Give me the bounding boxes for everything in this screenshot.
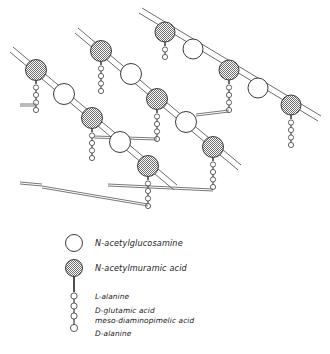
residue-nag bbox=[248, 78, 268, 98]
peptide-residue-icon bbox=[71, 303, 77, 309]
legend-item-peptide-chain: L-alanine D-glutamic acid meso-diaminopi… bbox=[70, 276, 194, 338]
residue-nam bbox=[147, 89, 168, 110]
legend-label-l-alanine: L-alanine bbox=[95, 292, 130, 301]
peptide-side-chain bbox=[226, 76, 231, 113]
residue-nam bbox=[219, 60, 239, 80]
legend-label-d-glutamic-acid: D-glutamic acid bbox=[95, 306, 155, 315]
peptide-side-chain bbox=[154, 105, 159, 142]
cross-link bbox=[42, 186, 148, 206]
residue-nam bbox=[26, 60, 47, 81]
peptide-side-chain bbox=[288, 111, 293, 148]
cross-link bbox=[196, 110, 229, 116]
residue-nag bbox=[183, 39, 203, 59]
residue-nam bbox=[91, 41, 112, 62]
residue-nam bbox=[155, 22, 175, 42]
glycan-strand-lower bbox=[10, 47, 177, 209]
legend-label-nam: N-acetylmuramic acid bbox=[95, 263, 188, 273]
cross-link bbox=[20, 104, 36, 106]
residue-nag bbox=[176, 112, 197, 133]
residue-nag bbox=[110, 132, 131, 153]
legend-item-nag: N-acetylglucosamine bbox=[66, 235, 183, 252]
nam-legend-icon bbox=[66, 260, 83, 277]
strand-stub bbox=[20, 182, 42, 186]
peptide-side-chain bbox=[33, 76, 38, 113]
residue-nam bbox=[138, 156, 159, 177]
legend-item-nam: N-acetylmuramic acid bbox=[66, 260, 188, 277]
peptidoglycan-diagram: N-acetylglucosamine N-acetylmuramic acid… bbox=[0, 0, 330, 354]
residue-nam bbox=[82, 108, 103, 129]
nag-legend-icon bbox=[66, 235, 83, 252]
legend-label-nag: N-acetylglucosamine bbox=[95, 238, 183, 248]
legend-label-meso-diaminopimelic-acid: meso-diaminopimelic acid bbox=[95, 316, 194, 325]
residue-nam bbox=[281, 95, 301, 115]
peptide-residue-icon bbox=[71, 313, 77, 319]
residue-nam bbox=[203, 137, 224, 158]
legend-label-d-alanine: D-alanine bbox=[95, 329, 132, 338]
peptide-residue-icon bbox=[70, 324, 77, 331]
peptide-side-chain bbox=[98, 57, 103, 94]
peptide-side-chain bbox=[89, 124, 94, 161]
peptide-side-chain bbox=[210, 153, 215, 190]
residue-nag bbox=[54, 84, 75, 105]
peptide-residue-icon bbox=[71, 293, 77, 299]
cross-link bbox=[108, 184, 213, 191]
residue-nag bbox=[121, 64, 142, 85]
legend: N-acetylglucosamine N-acetylmuramic acid… bbox=[66, 235, 195, 339]
peptide-side-chain bbox=[145, 172, 150, 209]
glycan-strand-top bbox=[139, 8, 321, 148]
